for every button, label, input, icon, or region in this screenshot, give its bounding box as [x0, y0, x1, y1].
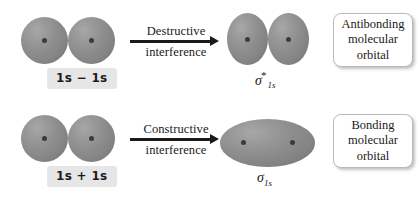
- combination-label-row1: 1s − 1s: [47, 68, 117, 89]
- sigma-subscript-row1: 1s: [267, 80, 275, 90]
- nucleus-dot-left-row1: [42, 38, 47, 43]
- nucleus-dot-right-row2: [89, 136, 94, 141]
- arrow-label-bottom-row1: interference: [131, 45, 221, 60]
- orbital-symbol-sigma-star-1s: σ*1s: [255, 69, 275, 90]
- callout-bonding-line-2: molecular: [348, 133, 398, 149]
- callout-bonding-line-1: Bonding: [348, 118, 398, 134]
- orbital-symbol-sigma-1s: σ1s: [257, 170, 272, 188]
- bonding-nucleus-right: [290, 140, 295, 145]
- antibonding-nucleus-left: [245, 37, 250, 42]
- sigma-glyph-row2: σ: [257, 170, 264, 185]
- sigma-subscript-row2: 1s: [264, 178, 272, 188]
- arrow-label-top-row2: Constructive: [131, 122, 221, 137]
- callout-bonding-line-3: orbital: [348, 149, 398, 165]
- orbital-diagram: 1s − 1s Destructive interference σ*1s An…: [0, 0, 420, 201]
- callout-bonding: Bonding molecular orbital: [333, 114, 413, 168]
- callout-antibonding-line-1: Antibonding: [341, 17, 404, 33]
- arrow-label-bottom-row2: interference: [131, 143, 221, 158]
- antibonding-nucleus-right: [286, 37, 291, 42]
- callout-antibonding: Antibonding molecular orbital: [333, 13, 413, 67]
- arrow-label-top-row1: Destructive: [131, 24, 221, 39]
- bonding-orbital: [220, 119, 315, 167]
- combination-label-row2: 1s + 1s: [47, 166, 117, 187]
- bonding-nucleus-left: [241, 140, 246, 145]
- arrow-line-row2: [130, 138, 211, 141]
- callout-antibonding-line-3: orbital: [341, 48, 404, 64]
- nucleus-dot-right-row1: [89, 38, 94, 43]
- sigma-star-glyph-row1: *: [261, 69, 267, 81]
- callout-antibonding-line-2: molecular: [341, 32, 404, 48]
- arrow-line-row1: [130, 40, 211, 43]
- nucleus-dot-left-row2: [42, 136, 47, 141]
